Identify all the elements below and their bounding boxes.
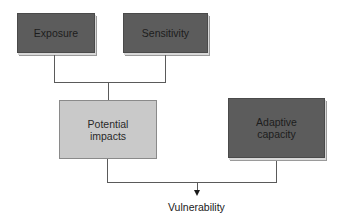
- vulnerability-label: Vulnerability: [168, 201, 225, 213]
- connector-bottom-horizontal: [107, 182, 277, 183]
- exposure-label: Exposure: [34, 27, 78, 39]
- potential-impacts-box: Potential impacts: [59, 100, 157, 159]
- potential-impacts-label-line2: impacts: [90, 130, 126, 142]
- arrow-down-icon: [194, 190, 200, 196]
- connector-adaptive-capacity-down: [276, 161, 277, 183]
- exposure-box: Exposure: [17, 13, 95, 53]
- adaptive-capacity-label-line2: capacity: [257, 128, 296, 140]
- potential-impacts-label-line1: Potential: [88, 118, 129, 130]
- connector-sensitivity-down: [165, 55, 166, 83]
- connector-potential-impacts-down: [107, 159, 108, 183]
- connector-to-potential-impacts: [108, 82, 109, 100]
- adaptive-capacity-label-line1: Adaptive: [256, 116, 297, 128]
- sensitivity-box: Sensitivity: [123, 13, 208, 53]
- connector-exposure-down: [54, 55, 55, 83]
- sensitivity-label: Sensitivity: [142, 27, 189, 39]
- connector-top-horizontal: [54, 82, 166, 83]
- adaptive-capacity-box: Adaptive capacity: [228, 98, 325, 158]
